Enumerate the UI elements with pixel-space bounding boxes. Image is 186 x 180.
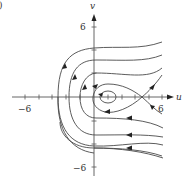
arrow-left-icon: [104, 109, 110, 114]
u-axis-arrow-icon: [167, 95, 174, 100]
v-axis-label: v: [90, 1, 95, 11]
trajectory-lowest: [60, 122, 162, 156]
arrow-in-icon: [150, 105, 155, 110]
arrow-left-icon: [126, 133, 132, 138]
v-min-label: −6: [73, 163, 87, 173]
arrowheads: [62, 63, 155, 151]
phase-portrait: ) −6 6 6 −6: [0, 0, 186, 180]
v-axis-arrow-icon: [92, 14, 97, 21]
u-min-label: −6: [18, 104, 32, 114]
trajectories: [58, 42, 163, 158]
v-max-label: 6: [80, 22, 86, 32]
trajectory-1: [58, 42, 163, 146]
corner-mark: ): [0, 0, 3, 10]
arrow-right-icon: [98, 93, 103, 97]
arrow-up-icon: [82, 84, 87, 90]
trajectory-2: [69, 55, 163, 158]
u-axis-label: u: [176, 92, 182, 102]
